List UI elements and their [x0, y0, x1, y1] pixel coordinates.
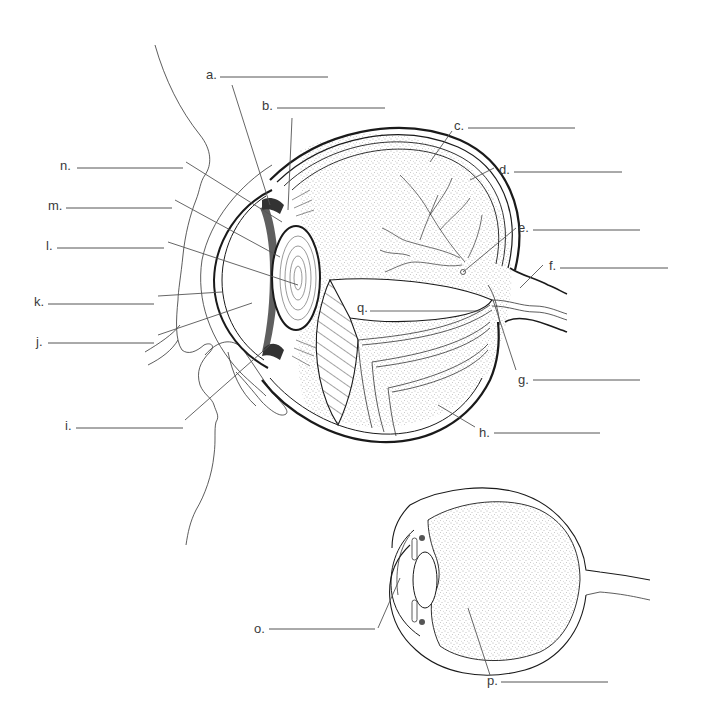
- label-c[interactable]: c.: [454, 118, 575, 133]
- label-letter: o.: [254, 621, 265, 636]
- label-letter: k.: [34, 294, 44, 309]
- label-letter: m.: [48, 198, 62, 213]
- label-g[interactable]: g.: [518, 372, 640, 387]
- label-p[interactable]: p.: [487, 673, 608, 688]
- main-eye: [201, 128, 567, 442]
- label-o[interactable]: o.: [254, 621, 375, 636]
- label-letter: j.: [35, 334, 43, 349]
- label-j[interactable]: j.: [35, 334, 154, 349]
- label-letter: b.: [262, 98, 273, 113]
- label-letter: g.: [518, 372, 529, 387]
- small-eye: [390, 488, 650, 675]
- label-letter: d.: [499, 162, 510, 177]
- label-q[interactable]: q.: [357, 300, 368, 315]
- label-b[interactable]: b.: [262, 98, 385, 113]
- label-letter: a.: [206, 67, 217, 82]
- label-letter: q.: [357, 300, 368, 315]
- label-m[interactable]: m.: [48, 198, 172, 213]
- label-k[interactable]: k.: [34, 294, 154, 309]
- label-letter: l.: [46, 238, 53, 253]
- label-letter: f.: [549, 258, 556, 273]
- label-letter: i.: [65, 418, 72, 433]
- label-n[interactable]: n.: [60, 158, 183, 173]
- label-d[interactable]: d.: [499, 162, 622, 177]
- label-a[interactable]: a.: [206, 67, 328, 82]
- label-letter: h.: [479, 425, 490, 440]
- label-l[interactable]: l.: [46, 238, 164, 253]
- label-letter: n.: [60, 158, 71, 173]
- eye-anatomy-diagram: a. b. c. d. e. f. g. h. i. j. k. l.: [0, 0, 705, 724]
- label-letter: e.: [518, 220, 529, 235]
- label-i[interactable]: i.: [65, 418, 183, 433]
- label-f[interactable]: f.: [549, 258, 668, 273]
- label-e[interactable]: e.: [518, 220, 640, 235]
- label-h[interactable]: h.: [479, 425, 600, 440]
- label-letter: c.: [454, 118, 464, 133]
- label-letter: p.: [487, 673, 498, 688]
